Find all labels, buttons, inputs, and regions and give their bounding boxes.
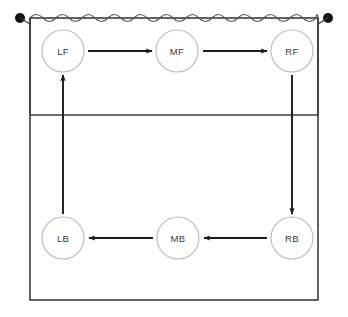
player-position-left-front[interactable]: LF — [42, 30, 84, 72]
position-label-lf: LF — [57, 46, 69, 57]
position-label-rf: RF — [285, 46, 298, 57]
player-positions: LFMFRFLBMBRB — [42, 30, 313, 259]
volleyball-rotation-diagram: LFMFRFLBMBRB — [0, 0, 348, 317]
player-position-middle-back[interactable]: MB — [157, 217, 199, 259]
court-diagram-canvas: LFMFRFLBMBRB — [0, 0, 348, 317]
player-position-right-front[interactable]: RF — [271, 30, 313, 72]
player-position-left-back[interactable]: LB — [42, 217, 84, 259]
position-label-rb: RB — [285, 233, 299, 244]
position-label-lb: LB — [57, 233, 69, 244]
player-position-right-back[interactable]: RB — [271, 217, 313, 259]
position-label-mb: MB — [171, 233, 186, 244]
position-label-mf: MF — [170, 46, 184, 57]
rotation-arrows — [63, 51, 292, 238]
player-position-middle-front[interactable]: MF — [156, 30, 198, 72]
